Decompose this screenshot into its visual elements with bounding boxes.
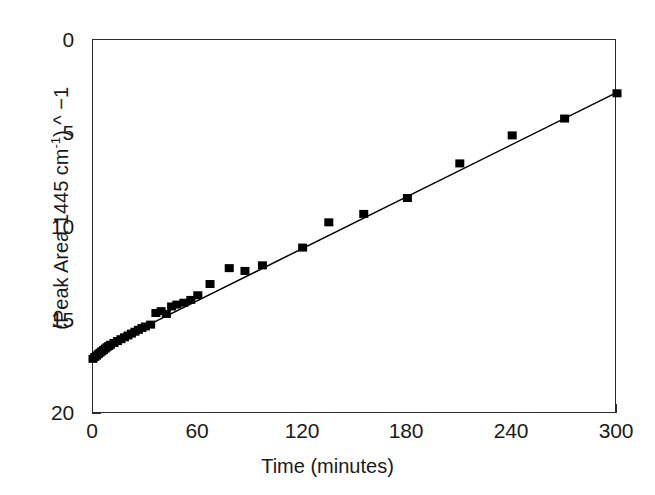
data-point-marker [240, 267, 249, 275]
data-point-marker [359, 210, 368, 218]
data-point-marker [508, 131, 517, 139]
data-point-marker [146, 321, 155, 329]
data-point-marker [206, 280, 215, 288]
x-tick-label-240: 240 [476, 420, 546, 441]
y-axis-title: (Peak Area 1445 cm-1) ^ −1 [49, 87, 71, 330]
data-point-marker [455, 159, 464, 167]
y-axis-title-wrapper: (Peak Area 1445 cm-1) ^ −1 [48, 0, 73, 418]
data-point-marker [613, 89, 622, 97]
data-point-marker [298, 244, 307, 252]
data-point-marker [162, 310, 171, 318]
data-point-marker [403, 194, 412, 202]
y-axis-title-prefix: (Peak Area 1445 cm [49, 148, 71, 329]
y-axis-title-superscript: -1 [48, 137, 63, 149]
x-tick-label-0: 0 [57, 420, 127, 441]
data-point-marker [258, 261, 267, 269]
x-tick-label-60: 60 [162, 420, 232, 441]
x-tick-label-300: 300 [581, 420, 651, 441]
data-point-marker [560, 115, 569, 123]
fit-line-segment [131, 92, 617, 333]
data-point-marker [193, 291, 202, 299]
data-point-marker [324, 218, 333, 226]
x-tick-label-180: 180 [371, 420, 441, 441]
data-point-marker [225, 264, 234, 272]
y-axis-title-suffix: ) ^ −1 [49, 87, 71, 137]
fit-line [131, 92, 617, 333]
x-axis-title: Time (minutes) [0, 455, 655, 478]
x-tick-label-120: 120 [267, 420, 337, 441]
plot-svg [93, 40, 617, 414]
figure-container: 0 5 10 15 20 0 60 120 180 240 300 Time (… [0, 0, 655, 495]
plot-area [92, 39, 616, 413]
